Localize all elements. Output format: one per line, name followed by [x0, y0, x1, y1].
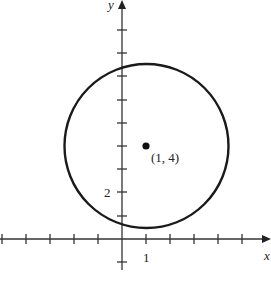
x-axis-arrow-icon [262, 235, 271, 243]
y-tick-label-2: 2 [104, 185, 111, 200]
x-axis-label: x [263, 248, 270, 263]
center-point [142, 142, 149, 149]
x-tick-label-1: 1 [143, 250, 150, 265]
y-axis-label: y [106, 0, 114, 12]
y-axis [117, 6, 127, 270]
y-axis-arrow-icon [118, 0, 126, 9]
center-point-label: (1, 4) [151, 150, 179, 165]
coordinate-plane: y x 1 2 (1, 4) [0, 0, 271, 300]
x-axis [0, 234, 264, 244]
